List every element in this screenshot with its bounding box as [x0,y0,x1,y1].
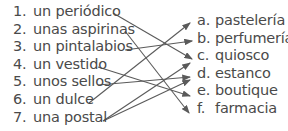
left-item-6: 6.un dulce [13,91,135,109]
left-item-5: 5.unos sellos [13,73,135,91]
left-item-3: 3.un pintalabios [13,38,135,56]
right-item-d: d.estanco [197,65,288,83]
left-item-7: 7.una postal [13,109,135,127]
right-item-b: b.perfumería [197,30,288,48]
left-item-2: 2.unas aspirinas [13,21,135,39]
right-item-f: f.farmacia [197,100,288,118]
right-item-e: e.boutique [197,82,288,100]
left-column: 1.un periódico 2.unas aspirinas 3.un pin… [13,3,135,126]
left-item-1: 1.un periódico [13,3,135,21]
left-item-4: 4.un vestido [13,56,135,74]
right-item-c: c.quiosco [197,47,288,65]
right-column: a.pastelería b.perfumería c.quiosco d.es… [197,12,288,118]
right-item-a: a.pastelería [197,12,288,30]
